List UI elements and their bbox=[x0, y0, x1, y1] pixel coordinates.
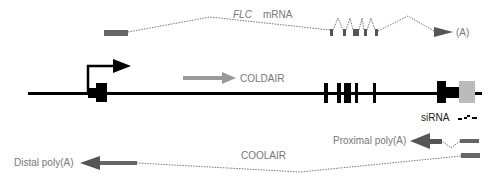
mrna-label: mRNA bbox=[263, 9, 292, 21]
flc-gene-label: FLC bbox=[233, 9, 252, 21]
mrna-arrowhead-icon bbox=[434, 27, 453, 37]
coldair-arrow-icon bbox=[183, 72, 236, 84]
sirna-label: siRNA bbox=[421, 112, 449, 124]
coolair-proximal-transcript bbox=[410, 133, 479, 149]
distal-polya-label: Distal poly(A) bbox=[14, 157, 73, 169]
proximal-polya-label: Proximal poly(A) bbox=[333, 135, 406, 147]
polya-end-label: (A) bbox=[456, 27, 469, 39]
coldair-label: COLDAIR bbox=[240, 73, 284, 85]
coolair-label: COOLAIR bbox=[241, 150, 286, 162]
proximal-arrowhead-icon bbox=[410, 133, 430, 149]
sirna-icon bbox=[458, 115, 477, 120]
flc-locus-diagram: FLC mRNA (A) COLDAIR siRNA Proximal poly… bbox=[0, 0, 502, 177]
distal-arrowhead-icon bbox=[80, 156, 100, 170]
